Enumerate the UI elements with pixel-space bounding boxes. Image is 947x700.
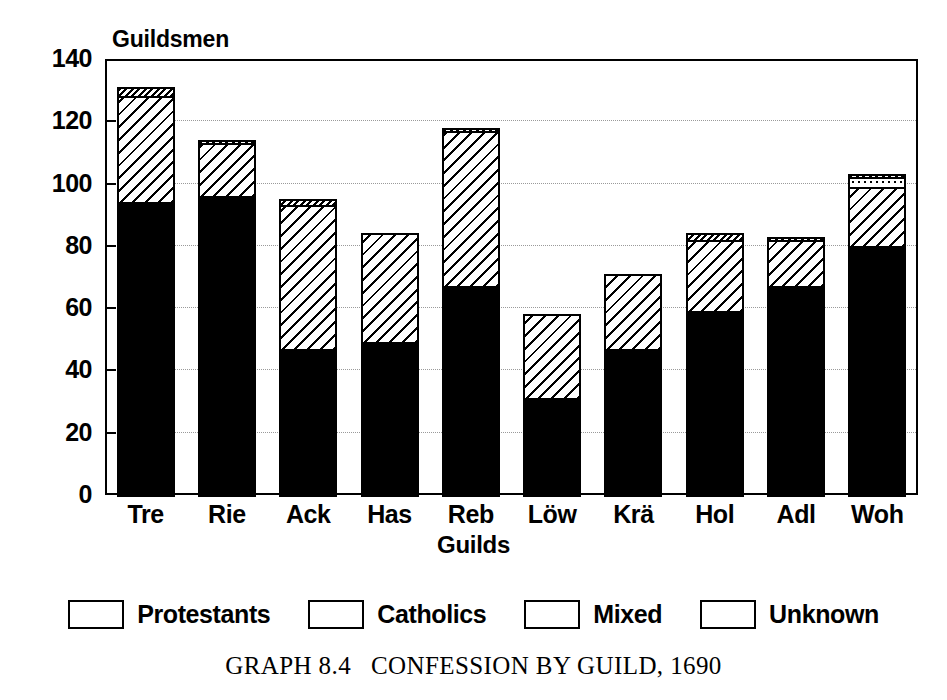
bar-segment-catholics: [442, 131, 500, 289]
legend-item: Unknown: [700, 600, 879, 629]
bar-segment-catholics: [117, 96, 175, 204]
bar-segment-protestants: [767, 286, 825, 497]
bar-segment-catholics: [848, 187, 906, 248]
bar-column: [523, 59, 581, 495]
y-tick-label: 40: [65, 357, 92, 382]
y-tick-mark: [105, 245, 116, 247]
bar-segment-unknown: [686, 233, 744, 241]
bar-segment-catholics: [279, 205, 337, 350]
y-tick-label: 60: [65, 295, 92, 320]
x-tick-label: Krä: [593, 500, 674, 529]
y-tick-mark: [105, 120, 116, 122]
bar-segment-catholics: [523, 314, 581, 400]
diagonal-hatch-swatch: [308, 600, 364, 629]
bar-segment-unknown: [767, 237, 825, 242]
bar-segment-unknown: [279, 199, 337, 207]
legend-item: Catholics: [308, 600, 486, 629]
y-tick-label: 80: [65, 233, 92, 258]
y-tick-mark: [105, 369, 116, 371]
bar-column: [767, 59, 825, 495]
bar-column: [279, 59, 337, 495]
bar-column: [604, 59, 662, 495]
dense-hatch-swatch: [700, 600, 756, 629]
bar-segment-protestants: [848, 246, 906, 497]
bar-segment-unknown: [442, 128, 500, 133]
legend-label: Catholics: [377, 600, 486, 629]
y-axis-title: Guildsmen: [112, 26, 229, 53]
legend-item: Mixed: [524, 600, 662, 629]
chart-figure: Guildsmen 020406080100120140 TreRieAckHa…: [0, 0, 947, 700]
bar-segment-catholics: [767, 240, 825, 289]
bar-segment-protestants: [442, 286, 500, 497]
x-tick-label: Rie: [186, 500, 267, 529]
legend-label: Unknown: [769, 600, 879, 629]
x-tick-label: Woh: [837, 500, 918, 529]
bar-segment-unknown: [848, 174, 906, 179]
x-tick-label: Reb: [430, 500, 511, 529]
bar-segment-catholics: [198, 143, 256, 198]
legend-item: Protestants: [68, 600, 270, 629]
dotted-swatch: [524, 600, 580, 629]
x-tick-label: Löw: [512, 500, 593, 529]
x-tick-label: Adl: [755, 500, 836, 529]
x-tick-label: Has: [349, 500, 430, 529]
bar-segment-catholics: [361, 233, 419, 344]
legend-label: Protestants: [137, 600, 270, 629]
bar-column: [442, 59, 500, 495]
figure-caption: GRAPH 8.4 CONFESSION BY GUILD, 1690: [0, 652, 947, 680]
y-tick-label: 0: [79, 482, 92, 507]
bar-segment-protestants: [686, 311, 744, 497]
bar-segment-catholics: [604, 274, 662, 351]
bar-segment-protestants: [198, 196, 256, 497]
legend-label: Mixed: [593, 600, 662, 629]
solid-black-swatch: [68, 600, 124, 629]
bar-segment-protestants: [279, 349, 337, 497]
bar-column: [117, 59, 175, 495]
chart-legend: ProtestantsCatholicsMixedUnknown: [0, 600, 947, 629]
x-tick-label: Hol: [674, 500, 755, 529]
y-tick-mark: [105, 183, 116, 185]
y-tick-mark: [105, 432, 116, 434]
x-axis-title: Guilds: [0, 531, 947, 559]
y-tick-mark: [105, 307, 116, 309]
bar-column: [848, 59, 906, 495]
bar-segment-protestants: [604, 349, 662, 497]
bar-segment-catholics: [686, 240, 744, 314]
y-tick-label: 120: [52, 108, 92, 133]
bar-segment-protestants: [361, 342, 419, 497]
bar-column: [686, 59, 744, 495]
y-tick-label: 100: [52, 171, 92, 196]
y-tick-label: 20: [65, 420, 92, 445]
y-tick-label: 140: [52, 46, 92, 71]
bar-column: [361, 59, 419, 495]
bar-column: [198, 59, 256, 495]
bar-segment-unknown: [117, 87, 175, 98]
x-tick-label: Tre: [105, 500, 186, 529]
bar-segment-protestants: [117, 202, 175, 497]
bar-segment-protestants: [523, 398, 581, 497]
x-tick-label: Ack: [268, 500, 349, 529]
bar-segment-unknown: [198, 140, 256, 145]
